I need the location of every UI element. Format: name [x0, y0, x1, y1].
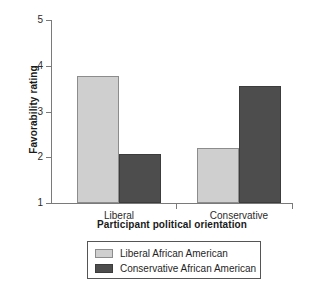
y-tick-mark-1 [46, 203, 51, 204]
bar-conservative-conservative-target [239, 86, 281, 203]
bar-liberal-conservative-target [119, 154, 161, 203]
bar-chart-figure: Favorability rating 1 2 3 4 5 Liberal Co… [0, 0, 323, 290]
legend-swatch-dark-icon [95, 264, 113, 273]
legend-label-conservative-african-american: Conservative African American [120, 263, 256, 274]
legend-item-liberal-african-american: Liberal African American [95, 246, 260, 261]
y-tick-label-5: 5 [27, 15, 43, 25]
bar-conservative-liberal-target [197, 148, 239, 203]
y-tick-mark-4 [46, 66, 51, 67]
chart-legend: Liberal African American Conservative Af… [87, 241, 261, 279]
x-tick-mark-separator [176, 204, 177, 209]
x-axis-title: Participant political orientation [51, 219, 293, 230]
x-axis-line [51, 203, 293, 204]
bar-liberal-liberal-target [77, 76, 119, 203]
y-tick-label-2: 2 [27, 152, 43, 162]
legend-swatch-light-icon [95, 249, 113, 258]
plot-area: 1 2 3 4 5 Liberal Conservative [51, 20, 293, 203]
legend-item-conservative-african-american: Conservative African American [95, 261, 260, 276]
y-tick-mark-5 [46, 20, 51, 21]
y-axis-line [51, 20, 52, 204]
x-tick-mark-end [292, 204, 293, 209]
y-tick-mark-2 [46, 157, 51, 158]
y-tick-label-1: 1 [27, 198, 43, 208]
legend-label-liberal-african-american: Liberal African American [120, 248, 228, 259]
y-tick-mark-3 [46, 112, 51, 113]
y-tick-label-4: 4 [27, 61, 43, 71]
y-tick-label-3: 3 [27, 107, 43, 117]
